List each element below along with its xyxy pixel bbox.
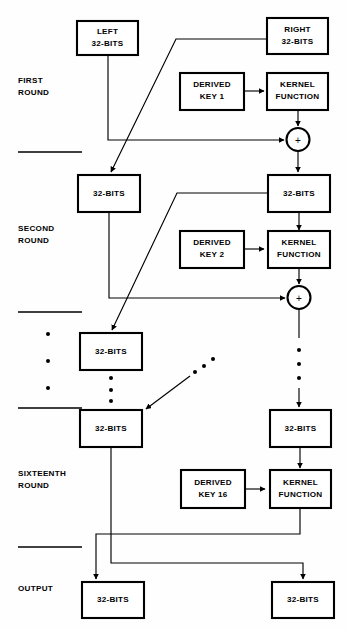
round-label-first: FIRST ROUND (18, 76, 49, 97)
round-label-output: OUTPUT (18, 584, 53, 593)
box-kernel-function-16-line1: KERNEL (283, 478, 318, 487)
ellipsis-left-column (109, 376, 113, 403)
box-kernel-function-1-line2: FUNCTION (276, 92, 320, 101)
box-derived-key-1-line2: KEY 1 (200, 92, 225, 101)
box-kernel-function-16-line2: FUNCTION (279, 490, 323, 499)
ellipsis-diagonal (193, 357, 215, 374)
round-label-sixteenth-line2: ROUND (18, 481, 49, 490)
box-derived-key-1-line1: DERIVED (193, 80, 231, 89)
xor-adder-round-1: + (287, 128, 310, 151)
box-output-right-line1: 32-BITS (287, 595, 319, 604)
box-round2-left-line1: 32-BITS (93, 189, 125, 198)
box-round16-right: 32-BITS (270, 410, 331, 447)
box-derived-key-2: DERIVED KEY 2 (180, 231, 244, 268)
wire-kernel16-to-output-left (96, 508, 300, 579)
xor-adder-round-1-symbol: + (295, 135, 301, 146)
round-label-first-line2: ROUND (18, 88, 49, 97)
box-derived-key-16: DERIVED KEY 16 (181, 470, 245, 508)
round-label-output-line1: OUTPUT (18, 584, 53, 593)
box-round16-left: 32-BITS (80, 410, 142, 447)
ellipsis-left-margin (46, 332, 50, 390)
box-derived-key-1: DERIVED KEY 1 (180, 73, 244, 110)
ellipsis-right-column (297, 348, 301, 380)
box-derived-key-2-line1: DERIVED (193, 238, 231, 247)
box-input-right-line1: RIGHT (284, 25, 310, 34)
box-output-left: 32-BITS (82, 582, 144, 618)
feistel-diagram: FIRST ROUND SECOND ROUND SIXTEENTH ROUND… (0, 0, 347, 629)
box-input-right: RIGHT 32-BITS (267, 18, 328, 54)
box-round2-right: 32-BITS (268, 175, 330, 212)
box-round16-left-line1: 32-BITS (95, 424, 127, 433)
box-kernel-function-1: KERNEL FUNCTION (267, 73, 328, 110)
box-round3-left: 32-BITS (80, 333, 142, 370)
wire-diagonal-to-round16-left (146, 376, 190, 409)
box-kernel-function-1-line1: KERNEL (280, 80, 315, 89)
box-derived-key-2-line2: KEY 2 (200, 250, 225, 259)
box-derived-key-16-line2: KEY 16 (198, 490, 227, 499)
box-input-left-line2: 32-BITS (92, 39, 124, 48)
box-input-right-line2: 32-BITS (282, 37, 314, 46)
diagram-canvas: FIRST ROUND SECOND ROUND SIXTEENTH ROUND… (0, 0, 347, 629)
box-input-left: LEFT 32-BITS (77, 21, 138, 55)
round-label-second: SECOND ROUND (18, 224, 54, 245)
box-round16-right-line1: 32-BITS (285, 424, 317, 433)
box-round3-left-line1: 32-BITS (95, 347, 127, 356)
box-output-right: 32-BITS (272, 582, 334, 618)
round-label-sixteenth-line1: SIXTEENTH (18, 469, 66, 478)
box-kernel-function-2: KERNEL FUNCTION (268, 231, 330, 268)
round-label-first-line1: FIRST (18, 76, 43, 85)
box-kernel-function-2-line1: KERNEL (282, 238, 317, 247)
box-input-left-line1: LEFT (97, 27, 118, 36)
xor-adder-round-2: + (288, 286, 311, 309)
box-round2-left: 32-BITS (78, 175, 140, 212)
round-label-second-line1: SECOND (18, 224, 54, 233)
wire-round16-left-to-output-right (111, 447, 303, 579)
box-kernel-function-16: KERNEL FUNCTION (270, 470, 331, 508)
round-label-sixteenth: SIXTEENTH ROUND (18, 469, 66, 490)
xor-adder-round-2-symbol: + (296, 293, 302, 304)
box-round2-right-line1: 32-BITS (283, 189, 315, 198)
box-kernel-function-2-line2: FUNCTION (277, 250, 321, 259)
box-output-left-line1: 32-BITS (97, 595, 129, 604)
box-derived-key-16-line1: DERIVED (194, 478, 232, 487)
round-label-second-line2: ROUND (18, 236, 49, 245)
